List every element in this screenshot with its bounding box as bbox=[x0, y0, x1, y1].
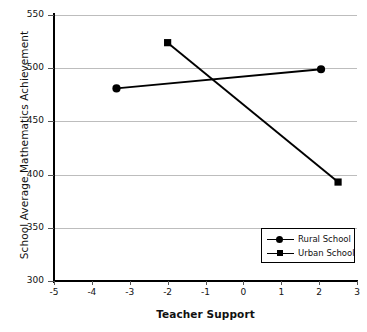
square-marker-icon bbox=[267, 247, 294, 259]
data-point-square bbox=[334, 178, 341, 185]
data-point-circle bbox=[317, 65, 325, 73]
data-point-circle bbox=[112, 84, 120, 92]
circle-marker-icon bbox=[267, 233, 294, 245]
legend-label-rural-school: Rural School bbox=[294, 234, 351, 244]
legend-label-urban-school: Urban School bbox=[294, 248, 355, 258]
legend-item-urban-school: Urban School bbox=[267, 246, 355, 260]
series-layer bbox=[0, 0, 367, 332]
chart-legend: Rural School Urban School bbox=[261, 228, 355, 263]
series-line-urban-school bbox=[168, 43, 338, 182]
data-point-square bbox=[164, 39, 171, 46]
legend-item-rural-school: Rural School bbox=[267, 232, 351, 246]
chart-figure: School Average Mathematics Achievement T… bbox=[0, 0, 367, 332]
